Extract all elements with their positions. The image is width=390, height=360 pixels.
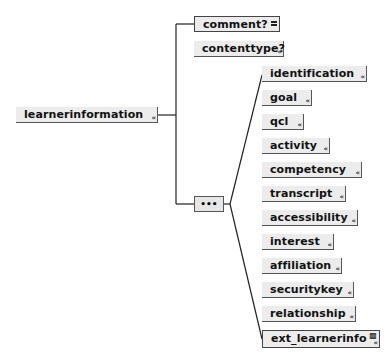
expand-icon[interactable]: « xyxy=(373,340,378,347)
root-node[interactable]: learnerinformation « xyxy=(16,107,158,123)
expand-icon[interactable]: « xyxy=(327,242,332,249)
node-affiliation[interactable]: affiliation« xyxy=(262,258,342,274)
expand-icon[interactable]: « xyxy=(347,290,352,297)
node-label: identification xyxy=(270,67,354,80)
node-label: relationship xyxy=(270,307,346,320)
node-label: qcl xyxy=(270,115,288,128)
node-ext-learnerinfo[interactable]: ext_learnerinfo▩« xyxy=(262,330,380,348)
node-label: transcript xyxy=(270,187,332,200)
expand-icon[interactable]: « xyxy=(297,122,302,129)
expand-icon[interactable]: « xyxy=(351,218,356,225)
node-label: comment? xyxy=(203,18,268,31)
node-identification[interactable]: identification« xyxy=(262,66,367,82)
node-label: goal xyxy=(270,91,297,104)
expand-icon[interactable]: « xyxy=(360,74,365,81)
expand-icon[interactable]: « xyxy=(277,49,282,56)
node-transcript[interactable]: transcript« xyxy=(262,186,346,202)
sequence-icon: ••• xyxy=(200,199,217,209)
node-label: ext_learnerinfo xyxy=(271,332,367,345)
node-competency[interactable]: competency« xyxy=(262,162,362,178)
node-activity[interactable]: activity« xyxy=(262,138,330,154)
node-label: competency xyxy=(270,163,346,176)
node-relationship[interactable]: relationship« xyxy=(262,306,356,322)
sequence-compositor[interactable]: ••• xyxy=(194,196,224,212)
expand-icon[interactable]: « xyxy=(151,115,156,122)
node-label: interest xyxy=(270,235,320,248)
expand-icon[interactable]: « xyxy=(305,98,310,105)
expand-icon[interactable]: « xyxy=(349,314,354,321)
node-securitykey[interactable]: securitykey« xyxy=(262,282,354,298)
expand-icon[interactable]: « xyxy=(355,170,360,177)
node-label: contenttype? xyxy=(202,42,285,55)
expand-icon[interactable]: « xyxy=(323,146,328,153)
expand-icon[interactable]: « xyxy=(339,194,344,201)
node-label: securitykey xyxy=(270,283,343,296)
node-label: accessibility xyxy=(270,211,348,224)
node-goal[interactable]: goal« xyxy=(262,90,312,106)
node-contenttype[interactable]: contenttype? « xyxy=(194,41,284,57)
node-qcl[interactable]: qcl« xyxy=(262,114,304,130)
node-label: affiliation xyxy=(270,259,331,272)
node-accessibility[interactable]: accessibility« xyxy=(262,210,358,226)
node-interest[interactable]: interest« xyxy=(262,234,334,250)
text-content-icon xyxy=(271,21,277,26)
root-label: learnerinformation xyxy=(24,108,143,121)
expand-icon[interactable]: « xyxy=(335,266,340,273)
node-label: activity xyxy=(270,139,317,152)
node-comment[interactable]: comment? xyxy=(194,16,280,32)
